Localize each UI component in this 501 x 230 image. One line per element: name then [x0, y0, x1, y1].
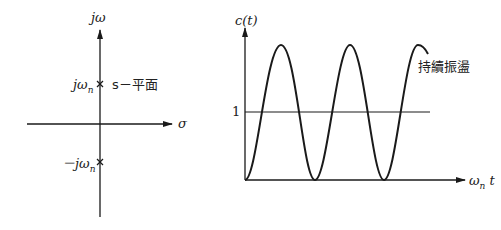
- pole-label-upper: jωn: [73, 78, 93, 95]
- pole-label-lower: －jωn: [62, 157, 95, 174]
- s-plane-diagram: [27, 30, 172, 217]
- x-axis-label-omega: ω: [469, 173, 480, 188]
- imaginary-axis-label: jω: [91, 11, 106, 24]
- pole-label-upper-sub: n: [88, 85, 94, 95]
- reference-value-label: 1: [232, 105, 240, 118]
- s-plane-label: s－平面: [112, 78, 158, 91]
- sustained-oscillation-annotation: 持續振盪: [418, 60, 470, 73]
- y-axis-label: c(t): [235, 14, 258, 27]
- diagram-canvas: [0, 0, 501, 230]
- pole-label-lower-text: －jω: [62, 156, 90, 171]
- pole-label-upper-text: jω: [73, 77, 88, 92]
- time-response-plot: [245, 28, 465, 180]
- real-axis-label: σ: [178, 117, 187, 130]
- pole-label-lower-sub: n: [90, 164, 96, 174]
- x-axis-label-t: t: [485, 173, 494, 188]
- x-axis-label: ωn t: [469, 174, 495, 191]
